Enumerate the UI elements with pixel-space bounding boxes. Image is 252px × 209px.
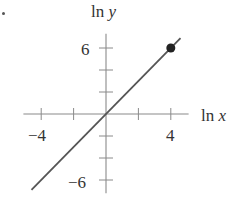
y-axis-title: ln y [91,3,116,20]
y-tick-label-6: 6 [81,41,90,58]
stray-dot [2,12,5,15]
x-axis-title-var: x [218,106,226,125]
y-axis-title-var: y [108,2,116,21]
x-axis-title-fn: ln [201,106,214,125]
data-point [166,44,175,53]
chart-plot-area [0,0,252,209]
x-tick-label-4: 4 [166,127,175,144]
x-tick-label-neg4: −4 [28,127,46,144]
y-axis-title-fn: ln [91,2,104,21]
x-axis-title: ln x [201,107,226,124]
y-tick-label-neg6: −6 [68,174,86,191]
